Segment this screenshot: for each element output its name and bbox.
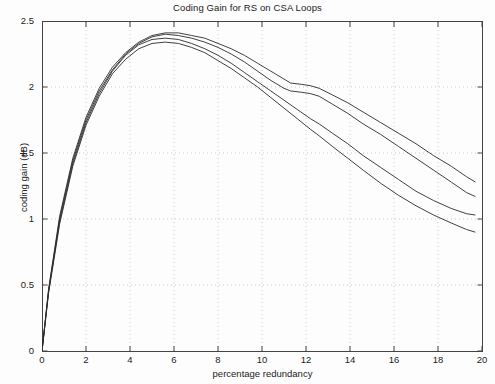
x-tick-label: 20 <box>470 354 494 365</box>
y-tick-label: 2.5 <box>4 15 34 26</box>
chart-figure: Coding Gain for RS on CSA Loops 00.511.5… <box>0 0 495 384</box>
plot-border <box>43 22 483 352</box>
chart-title: Coding Gain for RS on CSA Loops <box>0 2 495 13</box>
x-axis-label: percentage redundancy <box>42 368 483 379</box>
axis-tick-marks <box>43 22 483 352</box>
plot-area <box>42 21 483 352</box>
x-tick-label: 4 <box>118 354 142 365</box>
data-line-2 <box>42 34 475 351</box>
x-tick-label: 6 <box>162 354 186 365</box>
y-tick-label: 2 <box>4 81 34 92</box>
x-tick-label: 10 <box>250 354 274 365</box>
x-tick-label: 16 <box>382 354 406 365</box>
x-tick-label: 8 <box>206 354 230 365</box>
x-tick-label: 0 <box>30 354 54 365</box>
data-line-3 <box>42 38 475 351</box>
y-axis-label: coding gain (dB) <box>18 108 29 248</box>
grid-lines <box>43 22 482 351</box>
x-tick-label: 2 <box>74 354 98 365</box>
plot-canvas <box>42 21 483 352</box>
x-tick-label: 14 <box>338 354 362 365</box>
x-tick-label: 18 <box>426 354 450 365</box>
data-line-4 <box>42 42 475 351</box>
x-tick-label: 12 <box>294 354 318 365</box>
y-axis-label-wrapper: coding gain (dB) <box>0 0 1 1</box>
data-series-group <box>42 33 475 351</box>
y-tick-label: 0.5 <box>4 279 34 290</box>
